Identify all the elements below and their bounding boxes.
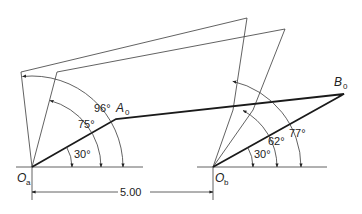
outer-link-position	[21, 18, 247, 167]
linkage-diagram: 30° 75° 96° 30° 62° 77° O a O b A 0 B 0 …	[0, 0, 362, 214]
point-sub-a0: 0	[125, 108, 130, 117]
arc-30-a	[67, 147, 72, 167]
angle-label-75-a: 75°	[78, 118, 95, 130]
point-label-ob: O	[215, 171, 224, 185]
point-label-b0: B	[334, 75, 342, 89]
angle-label-30-a: 30°	[74, 148, 91, 160]
point-label-oa: O	[17, 171, 26, 185]
angle-label-77-b: 77°	[289, 127, 306, 139]
arc-96-a	[23, 76, 124, 167]
angle-label-30-b: 30°	[254, 148, 271, 160]
point-sub-ob: b	[224, 178, 229, 187]
point-label-a0: A	[115, 101, 124, 115]
angle-label-96-a: 96°	[94, 102, 111, 114]
ob-ray-62	[213, 110, 253, 167]
arc-30-b	[248, 147, 253, 167]
point-sub-b0: 0	[343, 82, 348, 91]
dimension-label: 5.00	[120, 186, 141, 198]
point-sub-oa: a	[26, 178, 31, 187]
angle-label-62-b: 62°	[268, 135, 285, 147]
